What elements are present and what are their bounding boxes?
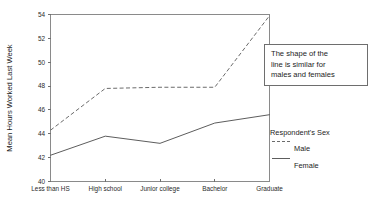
legend-swatch-female-icon (272, 158, 290, 160)
y-tick-label: 52 (38, 35, 46, 42)
y-tick-label: 40 (38, 178, 46, 185)
y-tick-label: 46 (38, 106, 46, 113)
plot-frame (51, 15, 270, 182)
annotation-text: The shape of the line is similar for mal… (271, 49, 362, 81)
y-tick-label: 48 (38, 82, 46, 89)
legend-title: Respondent's Sex (270, 128, 370, 137)
chart-canvas: 4042444648505254 Less than HSHigh school… (0, 0, 375, 211)
y-tick-label: 54 (38, 11, 46, 18)
y-axis-title: Mean Hours Worked Last Week (5, 44, 14, 152)
legend-label-female: Female (294, 161, 319, 170)
y-tick-label: 44 (38, 130, 46, 137)
y-tick-label: 42 (38, 154, 46, 161)
x-axis-tick-labels: Less than HSHigh schoolJunior collegeBac… (31, 185, 283, 193)
y-axis-tick-labels: 4042444648505254 (38, 11, 46, 185)
legend-swatch-male-icon (272, 141, 290, 143)
series-layer (51, 16, 270, 156)
x-tick-label: High school (89, 185, 122, 193)
series-line-male (51, 16, 270, 131)
series-line-female (51, 115, 270, 156)
x-tick-label: Less than HS (31, 185, 69, 192)
x-tick-label: Graduate (256, 185, 283, 192)
legend-label-male: Male (294, 144, 310, 153)
legend-item-male: Male (270, 139, 370, 156)
plot-border (51, 15, 270, 182)
chart-screenshot: 4042444648505254 Less than HSHigh school… (0, 0, 375, 211)
x-tick-label: Bachelor (202, 185, 228, 192)
annotation-callout: The shape of the line is similar for mal… (264, 44, 368, 86)
legend-item-female: Female (270, 156, 370, 173)
chart-legend: Respondent's Sex Male Female (270, 128, 370, 173)
y-tick-label: 50 (38, 59, 46, 66)
line-chart: 4042444648505254 Less than HSHigh school… (0, 0, 375, 211)
x-tick-label: Junior college (140, 185, 180, 193)
